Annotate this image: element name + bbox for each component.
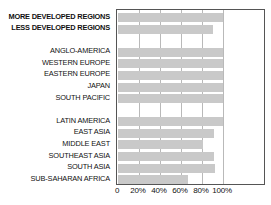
bar [118, 117, 223, 126]
bar [118, 13, 223, 22]
bar [118, 140, 203, 149]
x-axis-tick-labels: 020%40%60%80%100% [0, 186, 271, 202]
category-axis-labels: MORE DEVELOPED REGIONSLESS DEVELOPED REG… [0, 9, 113, 185]
bar [118, 25, 213, 34]
category-label: ANGLO-AMERICA [50, 47, 110, 55]
category-label: EASTERN EUROPE [44, 70, 110, 78]
category-label: EAST ASIA [74, 128, 110, 136]
bar-chart: MORE DEVELOPED REGIONSLESS DEVELOPED REG… [0, 0, 271, 205]
bar [118, 129, 214, 138]
category-label: LESS DEVELOPED REGIONS [11, 24, 110, 32]
plot-area [116, 9, 265, 185]
category-label: MORE DEVELOPED REGIONS [8, 13, 110, 21]
bar [118, 71, 223, 80]
x-tick-label: 100% [202, 186, 242, 195]
category-label: MIDDLE EAST [62, 140, 110, 148]
bar [118, 48, 223, 57]
gridline-100 [223, 10, 224, 184]
bar [118, 83, 223, 92]
category-label: SOUTH ASIA [67, 163, 110, 171]
bar [118, 94, 223, 103]
category-label: JAPAN [87, 82, 110, 90]
bar [118, 59, 223, 68]
category-label: SOUTH PACIFIC [55, 94, 110, 102]
category-label: SOUTHEAST ASIA [49, 152, 110, 160]
bar [118, 152, 214, 161]
bar [118, 175, 188, 184]
category-label: WESTERN EUROPE [42, 59, 110, 67]
category-label: LATIN AMERICA [56, 117, 110, 125]
category-label: SUB-SAHARAN AFRICA [31, 175, 110, 183]
bar [118, 164, 215, 173]
